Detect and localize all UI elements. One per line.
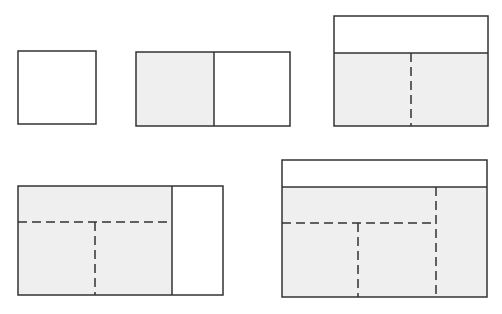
unshaded-region (18, 51, 96, 124)
partition-diagram-step-1 (18, 51, 96, 124)
unshaded-region (334, 16, 488, 53)
unshaded-region (172, 186, 223, 295)
unshaded-region (282, 160, 487, 187)
unshaded-region (214, 52, 290, 126)
partition-diagram-step-2 (136, 52, 290, 126)
shaded-region (282, 187, 487, 297)
partition-diagram-step-3 (334, 16, 488, 126)
partition-diagram-step-4 (18, 186, 223, 295)
diagram-canvas (0, 0, 502, 314)
partition-diagram-step-5 (282, 160, 487, 297)
shaded-region (136, 52, 214, 126)
